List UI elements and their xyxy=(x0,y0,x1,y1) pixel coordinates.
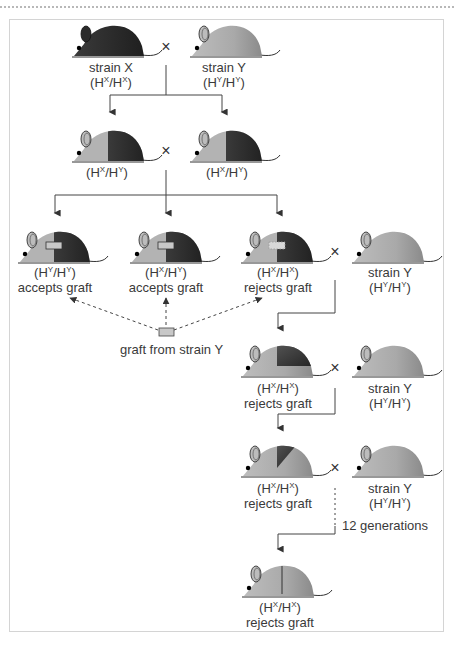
mouse-strain-x xyxy=(72,26,162,57)
graft-source-patch xyxy=(159,328,174,336)
label-backcross-1-strain-y: strain Y (HY/HY) xyxy=(368,381,412,411)
label-backcross-1: (HX/HX) rejects graft xyxy=(244,381,312,411)
cross-symbol-1: × xyxy=(161,38,170,56)
label-strain-x: strain X (HX/HX) xyxy=(89,60,133,90)
label-backcross-2-strain-y: strain Y (HY/HY) xyxy=(368,481,412,511)
mouse-f2-xx xyxy=(241,228,331,264)
label-congenic: (HX/HX) rejects graft xyxy=(246,600,314,630)
mouse-strain-y-2 xyxy=(352,232,442,263)
label-f2-strain-y: strain Y (HY/HY) xyxy=(368,265,412,295)
label-backcross-2: (HX/HX) rejects graft xyxy=(244,481,312,511)
mouse-f2-yy xyxy=(18,228,108,264)
mouse-backcross-1 xyxy=(241,342,331,377)
graft-arrows xyxy=(70,298,262,330)
cross-symbol-2: × xyxy=(161,142,170,160)
generations-note: 12 generations xyxy=(342,518,428,533)
label-f2-xy: (HX/HY) accepts graft xyxy=(129,265,203,295)
mouse-strain-y-3 xyxy=(352,346,442,377)
label-f1-a: (HX/HY) xyxy=(86,165,128,180)
cross-symbol-4: × xyxy=(330,359,339,377)
breeding-diagram xyxy=(0,0,454,647)
mouse-f1-a xyxy=(72,127,162,163)
mouse-f1-b xyxy=(190,127,280,163)
graft-source-label: graft from strain Y xyxy=(120,342,223,357)
cross-symbol-5: × xyxy=(330,459,339,477)
mouse-strain-y xyxy=(190,26,280,57)
mouse-congenic xyxy=(242,566,332,597)
mouse-backcross-2 xyxy=(241,442,331,477)
label-f2-xx: (HX/HX) rejects graft xyxy=(244,265,312,295)
label-strain-y: strain Y (HY/HY) xyxy=(202,60,246,90)
label-f2-yy: (HY/HY) accepts graft xyxy=(18,265,92,295)
graft-patch xyxy=(46,242,62,249)
label-f1-b: (HX/HY) xyxy=(206,165,248,180)
mouse-strain-y-4 xyxy=(352,446,442,477)
cross-symbol-3: × xyxy=(330,243,339,261)
mouse-f2-xy xyxy=(130,228,220,264)
